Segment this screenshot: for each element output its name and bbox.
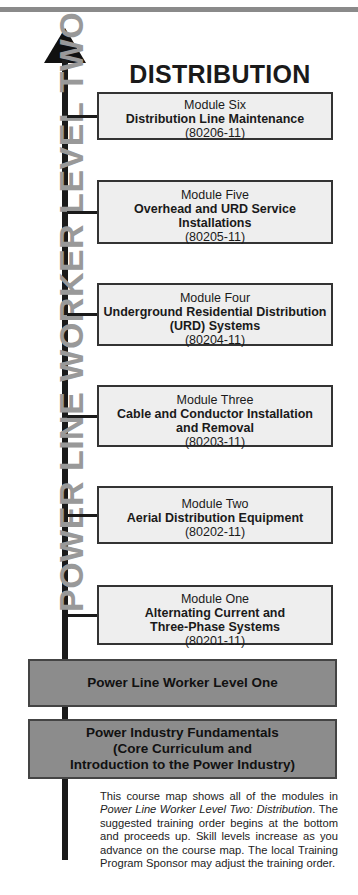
connector-line [67,211,97,214]
fundamentals-title-line2: (Core Curriculum and [30,741,335,757]
module-label: Module Six [99,98,331,112]
fundamentals-title-line1: Power Industry Fundamentals [30,725,335,741]
connector-line [67,313,97,316]
module-title: Cable and Conductor Installation and Rem… [99,407,331,435]
fundamentals-title-line3: Introduction to the Power Industry) [30,757,335,773]
module-box-six: Module Six Distribution Line Maintenance… [97,92,333,140]
module-title: Underground Residential Distribution (UR… [99,305,331,333]
section-title: DISTRIBUTION [120,60,320,89]
module-code: (80203-11) [99,435,331,449]
connector-line [67,115,97,118]
connector-line [67,614,97,617]
level-one-title: Power Line Worker Level One [87,675,277,690]
connector-line [67,415,97,418]
module-title: Overhead and URD Service Installations [99,202,331,230]
module-code: (80205-11) [99,230,331,244]
module-label: Module Four [99,291,331,305]
module-code: (80204-11) [99,333,331,347]
module-code: (80201-11) [99,634,331,648]
module-label: Module Three [99,393,331,407]
module-box-three: Module Three Cable and Conductor Install… [97,385,333,447]
module-code: (80206-11) [99,126,331,140]
module-title: Distribution Line Maintenance [99,112,331,126]
module-code: (80202-11) [99,525,331,539]
module-box-two: Module Two Aerial Distribution Equipment… [97,486,333,544]
module-box-four: Module Four Underground Residential Dist… [97,283,333,346]
course-map-description: This course map shows all of the modules… [100,790,338,870]
module-label: Module One [99,592,331,606]
module-box-one: Module One Alternating Current and Three… [97,585,333,645]
module-label: Module Five [99,188,331,202]
fundamentals-box: Power Industry Fundamentals (Core Curric… [28,719,337,779]
module-label: Module Two [99,497,331,511]
vertical-level-title: POWER LINE WORKER LEVEL TWO [52,12,91,612]
level-one-box: Power Line Worker Level One [28,659,337,707]
course-title-italic: Power Line Worker Level Two: Distributio… [100,803,312,815]
connector-line [67,514,97,517]
module-title: Aerial Distribution Equipment [99,511,331,525]
module-box-five: Module Five Overhead and URD Service Ins… [97,180,333,244]
module-title: Alternating Current and Three-Phase Syst… [99,606,331,634]
